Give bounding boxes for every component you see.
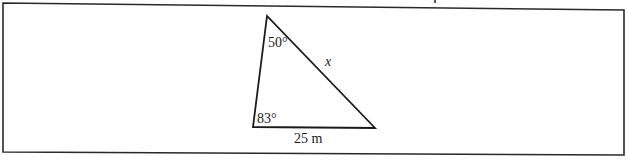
side-x-label: x [324,54,332,69]
bottom-left-angle-label: 83° [257,111,277,126]
base-length-label: 25 m [294,131,323,146]
cropped-text-fragment [434,0,436,3]
top-angle-label: 50° [268,35,288,50]
triangle-diagram: 50° x 83° 25 m [0,0,627,160]
